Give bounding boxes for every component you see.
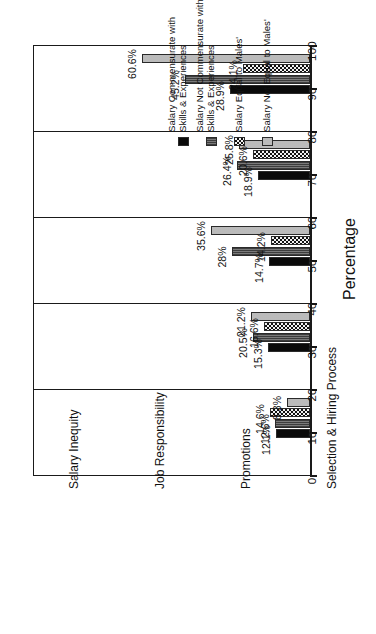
bar-value-label: 24.1% [227, 60, 239, 90]
axis-tick-label: 10 [306, 431, 318, 444]
axis-tick-label: 20 [306, 388, 318, 401]
bar-chart: 0102030405060708090100 Percentage Salary… [0, 0, 376, 634]
bar-value-label: 14.7% [253, 253, 265, 283]
legend-swatch [178, 137, 189, 146]
bar [258, 171, 310, 180]
bar-row [33, 343, 310, 352]
bar [276, 429, 310, 438]
group-separator [33, 303, 310, 304]
axis-tick-label: 0 [306, 478, 318, 485]
bar-row [33, 257, 310, 266]
bar-value-label: 60.6% [126, 49, 138, 79]
bar-row [33, 247, 310, 256]
axis-tick-label: 70 [306, 173, 318, 186]
category-label: Selection & Hiring Process [325, 347, 339, 489]
bar-row [33, 333, 310, 342]
category-label: Salary Inequity [67, 410, 81, 489]
bar-row [33, 171, 310, 180]
axis-tick-label: 100 [306, 41, 318, 61]
bar-value-label: 35.6% [195, 221, 207, 251]
bar [271, 236, 310, 245]
category-label: Job Responsibility [153, 392, 167, 489]
bar [269, 257, 310, 266]
bar-value-label: 28.9% [214, 81, 226, 111]
bar-value-label: 12.1% [260, 425, 272, 455]
group-separator [33, 389, 310, 390]
legend-label: Salary Not Equal to Males' [261, 19, 272, 132]
bar-value-label: 26.4% [221, 156, 233, 186]
axis-tick-label: 60 [306, 216, 318, 229]
bar-value-label: 15.3% [252, 339, 264, 369]
bar-row [33, 398, 310, 407]
bar [264, 322, 310, 331]
axis-tick-label: 90 [306, 87, 318, 100]
bar [268, 343, 310, 352]
bar-value-label: 45.2% [169, 70, 181, 100]
bar-value-label: 28% [216, 247, 228, 268]
legend-swatch [206, 137, 217, 146]
axis-title: Percentage [341, 218, 359, 300]
bar-row [33, 226, 310, 235]
axis-tick-label: 50 [306, 259, 318, 272]
bar-row [33, 236, 310, 245]
bar [251, 312, 310, 321]
bar-value-label: 18.9% [242, 167, 254, 197]
legend-label: Salary Not Commensurate withSkills & Exp… [194, 0, 216, 132]
axis-tick [310, 475, 317, 477]
legend-swatch [262, 137, 273, 146]
category-label: Promotions [239, 428, 253, 489]
axis-tick-label: 30 [306, 345, 318, 358]
group-separator [33, 217, 310, 218]
bar-row [33, 322, 310, 331]
axis-tick-label: 40 [306, 302, 318, 315]
bar-row [33, 161, 310, 170]
bar-row [33, 312, 310, 321]
chart-legend: Salary Commensurate withSkills & Experie… [178, 28, 298, 153]
bar [232, 247, 310, 256]
legend-swatch [234, 137, 245, 146]
bar [275, 419, 310, 428]
bar-value-label: 20.5% [237, 328, 249, 358]
bar-value-label: 8.3% [271, 396, 283, 420]
axis-tick-label: 80 [306, 130, 318, 143]
